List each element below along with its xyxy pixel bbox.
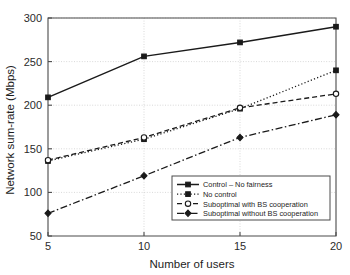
data-point-marker — [46, 95, 51, 100]
x-tick-label: 20 — [330, 240, 342, 252]
data-point-marker — [45, 157, 50, 162]
y-tick-label: 300 — [24, 12, 42, 24]
legend-label-0: Control – No fairness — [203, 180, 273, 189]
x-tick-label: 15 — [234, 240, 246, 252]
data-point-marker — [334, 68, 339, 73]
data-point-marker — [237, 105, 242, 110]
y-tick-label: 150 — [24, 143, 42, 155]
data-point-marker — [142, 54, 147, 59]
legend-label-2: Suboptimal with BS cooperation — [203, 200, 308, 209]
data-point-marker — [333, 91, 338, 96]
chart-background — [0, 0, 350, 275]
y-tick-label: 250 — [24, 56, 42, 68]
x-axis-title: Number of users — [149, 258, 234, 270]
legend-label-1: No control — [203, 190, 237, 199]
chart-figure: 5101520 50100150200250300 Number of user… — [0, 0, 350, 275]
data-point-marker — [185, 201, 190, 206]
data-point-marker — [238, 40, 243, 45]
x-tick-label: 10 — [138, 240, 150, 252]
network-sum-rate-line-chart: 5101520 50100150200250300 Number of user… — [0, 0, 350, 275]
data-point-marker — [334, 24, 339, 29]
x-tick-label: 5 — [45, 240, 51, 252]
data-point-marker — [186, 192, 191, 197]
y-axis-title: Network sum-rate (Mbps) — [4, 65, 16, 195]
y-tick-label: 50 — [30, 230, 42, 242]
y-tick-label: 200 — [24, 99, 42, 111]
legend-label-3: Suboptimal without BS cooperation — [203, 209, 318, 218]
chart-legend: Control – No fairnessNo controlSuboptima… — [172, 176, 330, 220]
data-point-marker — [141, 135, 146, 140]
data-point-marker — [186, 182, 191, 187]
y-tick-label: 100 — [24, 186, 42, 198]
